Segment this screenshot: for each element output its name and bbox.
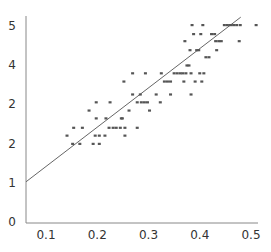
data-point xyxy=(166,80,169,82)
data-point xyxy=(238,40,241,42)
data-point xyxy=(189,49,192,51)
data-point xyxy=(198,72,201,74)
data-point xyxy=(200,80,203,82)
data-point xyxy=(229,24,232,26)
data-point xyxy=(121,117,124,119)
data-point xyxy=(169,93,172,95)
trendline xyxy=(26,17,241,182)
data-point xyxy=(131,72,134,74)
data-point xyxy=(144,72,147,74)
x-tick-label: 0.2 xyxy=(88,228,107,242)
data-point xyxy=(159,101,162,103)
x-tick-labels: 0.10.20.30.40.5 xyxy=(36,228,260,242)
data-point xyxy=(239,24,242,26)
data-point xyxy=(94,135,97,137)
data-point xyxy=(169,80,172,82)
data-point xyxy=(119,127,122,129)
data-point xyxy=(255,24,258,26)
data-point xyxy=(103,135,106,137)
data-point xyxy=(95,101,98,103)
data-point xyxy=(122,80,125,82)
data-point xyxy=(214,40,217,42)
data-point xyxy=(192,33,195,35)
data-point xyxy=(136,101,139,103)
data-point xyxy=(191,24,194,26)
data-point xyxy=(232,24,235,26)
data-point xyxy=(131,93,134,95)
data-point xyxy=(183,40,186,42)
data-point xyxy=(104,117,107,119)
data-point xyxy=(78,143,81,145)
data-point xyxy=(140,101,143,103)
x-tick-label: 0.1 xyxy=(36,228,55,242)
y-tick-label: 1 xyxy=(8,176,16,190)
data-point xyxy=(204,56,207,58)
scatter-chart: 012245 0.10.20.30.40.5 xyxy=(0,0,271,252)
data-point xyxy=(215,49,218,51)
data-point xyxy=(136,127,139,129)
y-tick-label: 5 xyxy=(8,19,16,33)
data-point xyxy=(115,127,118,129)
data-point xyxy=(95,117,98,119)
data-point xyxy=(98,135,101,137)
data-point xyxy=(108,127,111,129)
data-point xyxy=(226,24,229,26)
data-point xyxy=(139,93,142,95)
data-points xyxy=(66,24,258,145)
data-point xyxy=(182,80,185,82)
data-point xyxy=(223,24,226,26)
data-point xyxy=(112,127,115,129)
data-point xyxy=(201,24,204,26)
y-tick-labels: 012245 xyxy=(8,19,16,229)
data-point xyxy=(194,80,197,82)
data-point xyxy=(148,109,151,111)
data-point xyxy=(72,127,75,129)
data-point xyxy=(92,143,95,145)
data-point xyxy=(109,101,112,103)
data-point xyxy=(220,40,223,42)
regression-line xyxy=(26,17,241,182)
data-point xyxy=(88,109,91,111)
data-point xyxy=(66,135,69,137)
data-point xyxy=(146,101,149,103)
x-tick-label: 0.3 xyxy=(139,228,158,242)
data-point xyxy=(81,127,84,129)
data-point xyxy=(184,72,187,74)
data-point xyxy=(143,101,146,103)
x-tick-label: 0.5 xyxy=(241,228,260,242)
data-point xyxy=(128,109,131,111)
data-point xyxy=(187,64,190,66)
data-point xyxy=(71,143,74,145)
data-point xyxy=(213,33,216,35)
data-point xyxy=(190,72,193,74)
data-point xyxy=(173,72,176,74)
data-point xyxy=(210,33,213,35)
data-point xyxy=(163,80,166,82)
data-point xyxy=(197,49,200,51)
data-point xyxy=(217,40,220,42)
y-tick-label: 0 xyxy=(8,215,16,229)
data-point xyxy=(235,24,238,26)
y-tick-label: 4 xyxy=(8,58,16,72)
data-point xyxy=(190,93,193,95)
x-tick-label: 0.4 xyxy=(190,228,209,242)
data-point xyxy=(123,127,126,129)
data-point xyxy=(123,135,126,137)
data-point xyxy=(155,93,158,95)
y-tick-label: 2 xyxy=(8,97,16,111)
data-point xyxy=(202,72,205,74)
data-point xyxy=(98,143,101,145)
y-tick-label: 2 xyxy=(8,137,16,151)
data-point xyxy=(160,72,163,74)
data-point xyxy=(179,72,182,74)
axes xyxy=(26,16,258,223)
data-point xyxy=(181,72,184,74)
data-point xyxy=(207,56,210,58)
data-point xyxy=(176,72,179,74)
data-point xyxy=(199,33,202,35)
